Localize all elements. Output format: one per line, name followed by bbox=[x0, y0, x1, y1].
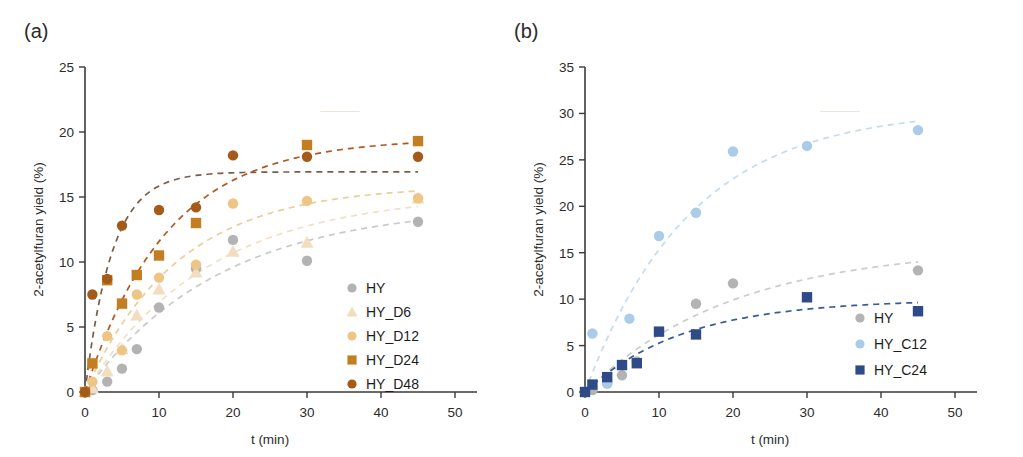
data-point bbox=[913, 265, 923, 275]
x-tick-label: 0 bbox=[81, 405, 89, 420]
data-point bbox=[101, 365, 114, 377]
watermark-artifact: ——— bbox=[321, 103, 360, 118]
legend-label: HY_D24 bbox=[366, 352, 419, 368]
data-point bbox=[691, 299, 701, 309]
y-tick-label: 25 bbox=[559, 153, 574, 168]
data-point bbox=[302, 196, 312, 206]
y-tick-label: 20 bbox=[59, 125, 74, 140]
y-tick-label: 5 bbox=[66, 320, 74, 335]
x-axis-title: t (min) bbox=[751, 432, 789, 447]
legend-marker bbox=[855, 313, 864, 322]
series-hy bbox=[580, 265, 923, 397]
data-point bbox=[154, 302, 164, 312]
y-axis-title: 2-acetylfuran yield (%) bbox=[531, 162, 546, 296]
data-point bbox=[587, 328, 597, 338]
data-point bbox=[87, 376, 97, 386]
data-point bbox=[654, 231, 664, 241]
data-point bbox=[154, 272, 164, 282]
x-axis-title: t (min) bbox=[251, 432, 289, 447]
legend-marker bbox=[347, 283, 356, 292]
fit-curve-hy bbox=[585, 262, 918, 392]
legend-label: HY_D12 bbox=[366, 328, 419, 344]
data-point bbox=[102, 376, 112, 386]
data-point bbox=[617, 370, 627, 380]
panel-a: (a) 051015202501020304050t (min)2-acetyl… bbox=[0, 0, 500, 457]
data-point bbox=[80, 387, 90, 397]
data-point bbox=[130, 309, 143, 321]
data-point bbox=[228, 198, 238, 208]
data-point bbox=[154, 205, 164, 215]
data-point bbox=[117, 363, 127, 373]
data-point bbox=[302, 256, 312, 266]
y-tick-label: 20 bbox=[559, 199, 574, 214]
data-point bbox=[153, 283, 166, 295]
data-point bbox=[691, 208, 701, 218]
x-tick-label: 0 bbox=[581, 405, 589, 420]
legend-label: HY bbox=[874, 310, 894, 326]
data-point bbox=[632, 358, 642, 368]
data-point bbox=[132, 289, 142, 299]
x-tick-label: 50 bbox=[947, 405, 962, 420]
data-point bbox=[132, 344, 142, 354]
data-point bbox=[154, 250, 164, 260]
panel-b-plot: 0510152025303501020304050t (min)2-acetyl… bbox=[500, 0, 1023, 457]
legend-label: HY_D6 bbox=[366, 304, 411, 320]
y-tick-label: 35 bbox=[559, 60, 574, 75]
data-point bbox=[87, 358, 97, 368]
series-hy-c24 bbox=[580, 292, 923, 397]
data-point bbox=[228, 235, 238, 245]
legend: HYHY_C12HY_C24 bbox=[855, 310, 927, 378]
y-tick-label: 0 bbox=[566, 385, 574, 400]
y-tick-label: 25 bbox=[59, 60, 74, 75]
y-axis-title-group: 2-acetylfuran yield (%) bbox=[531, 162, 546, 296]
data-point bbox=[413, 193, 423, 203]
data-point bbox=[617, 360, 627, 370]
y-tick-label: 10 bbox=[559, 292, 574, 307]
data-point bbox=[802, 292, 812, 302]
data-point bbox=[302, 152, 312, 162]
x-tick-label: 40 bbox=[873, 405, 888, 420]
panel-b: (b) 0510152025303501020304050t (min)2-ac… bbox=[500, 0, 1023, 457]
legend-marker bbox=[347, 331, 356, 340]
data-point bbox=[228, 150, 238, 160]
legend-marker bbox=[855, 339, 864, 348]
legend-marker bbox=[346, 306, 357, 316]
data-point bbox=[654, 326, 664, 336]
fit-curve-hy-c24 bbox=[585, 303, 918, 392]
x-tick-label: 20 bbox=[225, 405, 240, 420]
y-tick-label: 0 bbox=[66, 385, 74, 400]
legend-marker bbox=[855, 365, 864, 374]
data-point bbox=[87, 289, 97, 299]
y-tick-label: 15 bbox=[559, 246, 574, 261]
data-point bbox=[728, 146, 738, 156]
data-point bbox=[191, 259, 201, 269]
y-tick-label: 30 bbox=[559, 106, 574, 121]
data-point bbox=[587, 379, 597, 389]
x-tick-label: 10 bbox=[151, 405, 166, 420]
data-point bbox=[117, 220, 127, 230]
legend-label: HY_C24 bbox=[874, 362, 927, 378]
data-point bbox=[302, 140, 312, 150]
x-tick-label: 30 bbox=[799, 405, 814, 420]
data-point bbox=[728, 278, 738, 288]
data-point bbox=[102, 331, 112, 341]
x-tick-label: 50 bbox=[447, 405, 462, 420]
y-tick-label: 5 bbox=[566, 339, 574, 354]
y-tick-label: 15 bbox=[59, 190, 74, 205]
data-point bbox=[413, 136, 423, 146]
data-point bbox=[191, 202, 201, 212]
x-tick-label: 20 bbox=[725, 405, 740, 420]
data-point bbox=[413, 152, 423, 162]
panel-a-plot: 051015202501020304050t (min)2-acetylfura… bbox=[0, 0, 500, 457]
figure-container: (a) 051015202501020304050t (min)2-acetyl… bbox=[0, 0, 1023, 457]
y-axis-title: 2-acetylfuran yield (%) bbox=[31, 162, 46, 296]
legend-marker bbox=[347, 355, 356, 364]
data-point bbox=[913, 125, 923, 135]
data-point bbox=[102, 274, 112, 284]
data-point bbox=[191, 218, 201, 228]
data-point bbox=[117, 298, 127, 308]
data-point bbox=[624, 313, 634, 323]
y-axis-title-group: 2-acetylfuran yield (%) bbox=[31, 162, 46, 296]
data-point bbox=[132, 270, 142, 280]
data-point bbox=[802, 141, 812, 151]
